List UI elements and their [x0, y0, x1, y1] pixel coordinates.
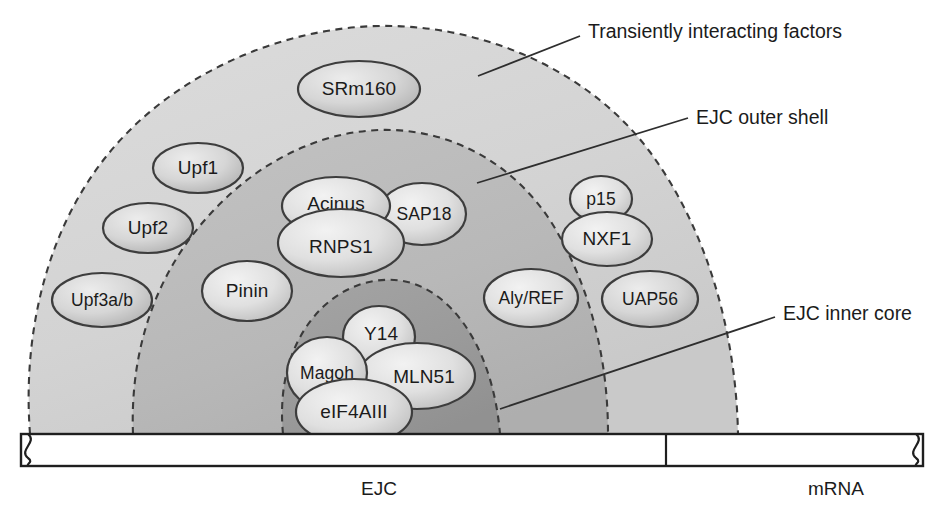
uap56-label: UAP56 [622, 289, 678, 309]
callout-ejc-inner-core: EJC inner core [783, 302, 912, 324]
mrna-bottom-label: mRNA [808, 478, 864, 499]
upf3ab-label: Upf3a/b [71, 290, 133, 310]
alyref-label: Aly/REF [499, 288, 564, 308]
protein-node-rnps1[interactable]: RNPS1 [278, 209, 404, 277]
protein-node-srm160[interactable]: SRm160 [298, 61, 420, 117]
protein-node-upf1[interactable]: Upf1 [153, 143, 243, 193]
protein-node-pinin[interactable]: Pinin [202, 261, 292, 321]
mrna-bar [21, 434, 923, 466]
protein-node-alyref[interactable]: Aly/REF [484, 269, 578, 327]
eif4aiii-label: eIF4AIII [320, 401, 387, 422]
protein-node-nxf1[interactable]: NXF1 [562, 212, 652, 266]
rnps1-label: RNPS1 [309, 236, 373, 257]
sap18-label: SAP18 [397, 204, 452, 224]
pinin-label: Pinin [226, 280, 269, 301]
srm160-label: SRm160 [322, 78, 397, 99]
mln51-label: MLN51 [393, 366, 455, 387]
callout-transient-interacting-factors: Transiently interacting factors [588, 20, 842, 42]
upf1-label: Upf1 [178, 157, 219, 178]
nxf1-label: NXF1 [583, 228, 632, 249]
protein-node-uap56[interactable]: UAP56 [602, 271, 698, 327]
ejc-diagram: SRm160 Upf1 Upf2 Upf3a/b UAP56 p15 NXF1 … [0, 0, 942, 519]
callout-ejc-outer-shell: EJC outer shell [696, 106, 828, 128]
p15-label: p15 [586, 189, 616, 209]
ejc-diagram-canvas: SRm160 Upf1 Upf2 Upf3a/b UAP56 p15 NXF1 … [0, 0, 942, 519]
protein-node-upf3ab[interactable]: Upf3a/b [52, 273, 152, 327]
y14-label: Y14 [364, 323, 398, 344]
ejc-bottom-label: EJC [361, 478, 397, 499]
protein-node-upf2[interactable]: Upf2 [103, 203, 193, 253]
upf2-label: Upf2 [128, 217, 169, 238]
